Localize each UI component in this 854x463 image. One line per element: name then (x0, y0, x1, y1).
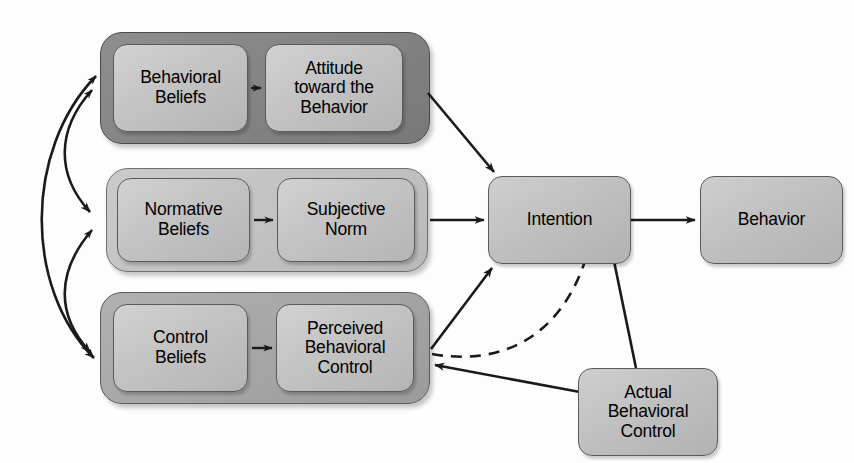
node-intention[interactable]: Intention (488, 176, 631, 264)
edge-attitude-norm-correlation[interactable] (65, 90, 92, 212)
node-control-beliefs[interactable]: ControlBeliefs (113, 304, 248, 392)
node-attitude[interactable]: Attitudetoward theBehavior (265, 44, 403, 132)
edge-norm-control-correlation[interactable] (65, 230, 92, 352)
node-perceived-behavioral-control-label: PerceivedBehavioralControl (297, 319, 394, 378)
node-attitude-label: Attitudetoward theBehavior (286, 59, 382, 118)
node-subjective-norm[interactable]: SubjectiveNorm (277, 178, 415, 262)
node-behavior-label: Behavior (730, 210, 813, 230)
edge-abc-to-pbc[interactable] (435, 365, 580, 392)
diagram-canvas: BehavioralBeliefs Attitudetoward theBeha… (0, 0, 854, 463)
node-actual-behavioral-control-label: ActualBehavioralControl (600, 383, 697, 442)
node-control-beliefs-label: ControlBeliefs (145, 328, 216, 367)
node-actual-behavioral-control[interactable]: ActualBehavioralControl (578, 368, 718, 456)
node-intention-label: Intention (519, 210, 600, 230)
edge-attitude-to-intention[interactable] (428, 93, 494, 172)
node-behavior[interactable]: Behavior (700, 176, 843, 264)
node-subjective-norm-label: SubjectiveNorm (299, 200, 394, 239)
node-behavioral-beliefs[interactable]: BehavioralBeliefs (113, 44, 248, 132)
edge-pbc-to-intention[interactable] (431, 268, 492, 349)
node-behavioral-beliefs-label: BehavioralBeliefs (132, 68, 229, 107)
node-normative-beliefs-label: NormativeBeliefs (137, 200, 231, 239)
node-perceived-behavioral-control[interactable]: PerceivedBehavioralControl (276, 304, 414, 392)
node-normative-beliefs[interactable]: NormativeBeliefs (117, 178, 250, 262)
